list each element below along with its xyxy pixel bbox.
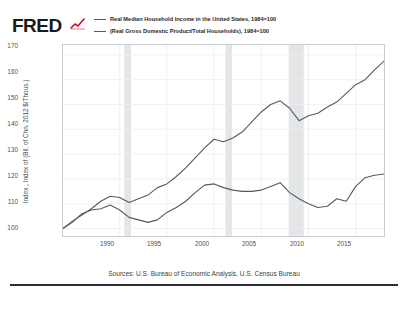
legend-label: (Real Gross Domestic Product/Total House… bbox=[110, 28, 269, 35]
chart-header: FRED Real Median Household Income in the… bbox=[6, 12, 402, 42]
y-axis-tick: 170 bbox=[0, 42, 18, 49]
y-axis-tick: 120 bbox=[0, 172, 18, 179]
x-axis-tick: 2015 bbox=[324, 240, 364, 247]
fred-chart-card: FRED Real Median Household Income in the… bbox=[6, 8, 402, 300]
footer-divider bbox=[10, 284, 398, 286]
series-line bbox=[63, 174, 384, 229]
sources-text: Sources: U.S. Bureau of Economic Analysi… bbox=[6, 270, 402, 277]
legend-item: Real Median Household Income in the Unit… bbox=[94, 14, 394, 24]
x-axis-tick: 1995 bbox=[134, 240, 174, 247]
x-axis-tick: 2005 bbox=[229, 240, 269, 247]
recession-band bbox=[289, 45, 304, 236]
x-axis-tick: 1990 bbox=[87, 240, 127, 247]
legend-label: Real Median Household Income in the Unit… bbox=[110, 16, 276, 23]
y-axis-tick: 160 bbox=[0, 68, 18, 75]
x-axis-tick: 2000 bbox=[182, 240, 222, 247]
y-axis-tick: 150 bbox=[0, 94, 18, 101]
legend-item: (Real Gross Domestic Product/Total House… bbox=[94, 26, 394, 36]
red-line-chart-squiggle-icon bbox=[70, 18, 86, 30]
y-axis-title: Index , Index of (Bil. of Chn. 2012 $/Th… bbox=[22, 49, 29, 235]
y-axis-tick: 130 bbox=[0, 146, 18, 153]
y-axis-tick: 110 bbox=[0, 198, 18, 205]
gridlines bbox=[63, 45, 384, 236]
x-axis-tick: 2010 bbox=[277, 240, 317, 247]
chart-legend: Real Median Household Income in the Unit… bbox=[94, 14, 394, 38]
y-axis-tick: 140 bbox=[0, 120, 18, 127]
chart-svg bbox=[63, 45, 384, 236]
fred-logo: FRED bbox=[12, 16, 62, 35]
legend-swatch-icon bbox=[94, 31, 106, 32]
plot-canvas bbox=[62, 44, 385, 237]
plot-area-wrapper: Index , Index of (Bil. of Chn. 2012 $/Th… bbox=[6, 40, 402, 262]
recession-band bbox=[124, 45, 131, 236]
legend-swatch-icon bbox=[94, 19, 106, 20]
y-axis-tick: 100 bbox=[0, 224, 18, 231]
